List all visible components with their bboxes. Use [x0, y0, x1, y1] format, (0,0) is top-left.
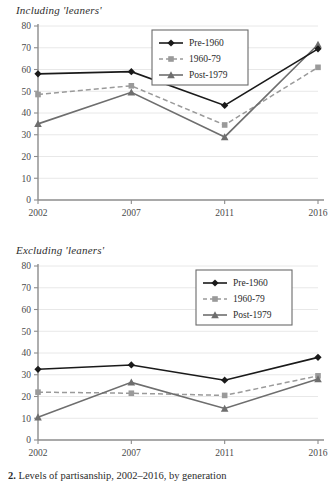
y-tick-label: 30: [22, 130, 32, 140]
chart-panel-excluding-leaners: Excluding 'leaners' 01020304050607080200…: [0, 240, 331, 472]
chart-title-excluding-leaners: Excluding 'leaners': [16, 244, 104, 256]
plot-area-excluding-leaners: 010203040506070802002200720112016Pre-196…: [0, 258, 331, 473]
x-tick-label: 2011: [215, 448, 234, 458]
legend-marker-g196079: [168, 56, 174, 62]
y-tick-label: 80: [22, 21, 32, 31]
figure-partisanship-by-generation: Including 'leaners' 01020304050607080200…: [0, 0, 331, 488]
x-tick-label: 2016: [309, 208, 328, 218]
plot-area-including-leaners: 010203040506070802002200720112016Pre-196…: [0, 18, 331, 233]
legend-label-pre1960: Pre-1960: [233, 278, 268, 288]
figure-caption: 2. Levels of partisanship, 2002–2016, by…: [8, 470, 328, 481]
chart-title-including-leaners: Including 'leaners': [16, 4, 102, 16]
data-point-pre-1960-2007: [128, 361, 135, 368]
data-point-pre-1960-2002: [34, 366, 41, 373]
legend-label-g196079: 1960-79: [233, 294, 265, 304]
x-tick-label: 2002: [29, 208, 48, 218]
data-point-post-1979-2007: [128, 89, 136, 96]
y-tick-label: 40: [22, 108, 32, 118]
series-line-pre-1960: [38, 357, 318, 380]
y-tick-label: 0: [26, 195, 31, 205]
data-point-1960-79-2011: [222, 393, 228, 399]
legend-label-post1979: Post-1979: [233, 310, 272, 320]
data-point-1960-79-2007: [129, 83, 135, 89]
y-tick-label: 30: [22, 370, 32, 380]
y-tick-label: 70: [22, 283, 32, 293]
data-point-1960-79-2007: [129, 390, 135, 396]
x-tick-label: 2007: [122, 208, 141, 218]
x-tick-label: 2011: [215, 208, 234, 218]
data-point-1960-79-2016: [315, 65, 321, 71]
figure-caption-text: Levels of partisanship, 2002–2016, by ge…: [19, 470, 227, 481]
data-point-1960-79-2002: [35, 92, 41, 98]
data-point-post-1979-2007: [128, 379, 136, 386]
data-point-pre-1960-2011: [221, 377, 228, 384]
y-tick-label: 10: [22, 174, 32, 184]
x-tick-label: 2016: [309, 448, 328, 458]
y-tick-label: 0: [26, 435, 31, 445]
data-point-pre-1960-2016: [314, 354, 321, 361]
y-tick-label: 20: [22, 392, 32, 402]
legend: Pre-19601960-79Post-1979: [152, 30, 248, 85]
y-tick-label: 50: [22, 327, 32, 337]
data-point-1960-79-2011: [222, 122, 228, 128]
chart-panel-including-leaners: Including 'leaners' 01020304050607080200…: [0, 0, 331, 240]
legend: Pre-19601960-79Post-1979: [196, 270, 292, 325]
y-tick-label: 60: [22, 305, 32, 315]
data-point-pre-1960-2002: [34, 70, 41, 77]
y-tick-label: 20: [22, 152, 32, 162]
x-tick-label: 2007: [122, 448, 141, 458]
figure-caption-number: 2.: [8, 470, 16, 481]
series-line-post-1979: [38, 379, 318, 417]
y-tick-label: 40: [22, 348, 32, 358]
legend-marker-g196079: [212, 296, 218, 302]
y-tick-label: 80: [22, 261, 32, 271]
data-point-pre-1960-2011: [221, 102, 228, 109]
line-chart-including-leaners: 010203040506070802002200720112016Pre-196…: [0, 18, 331, 233]
y-tick-label: 70: [22, 43, 32, 53]
legend-label-post1979: Post-1979: [189, 70, 228, 80]
line-chart-excluding-leaners: 010203040506070802002200720112016Pre-196…: [0, 258, 331, 473]
legend-label-g196079: 1960-79: [189, 54, 221, 64]
x-tick-label: 2002: [29, 448, 48, 458]
y-tick-label: 60: [22, 65, 32, 75]
y-tick-label: 50: [22, 87, 32, 97]
y-tick-label: 10: [22, 414, 32, 424]
legend-label-pre1960: Pre-1960: [189, 38, 224, 48]
data-point-1960-79-2002: [35, 389, 41, 395]
